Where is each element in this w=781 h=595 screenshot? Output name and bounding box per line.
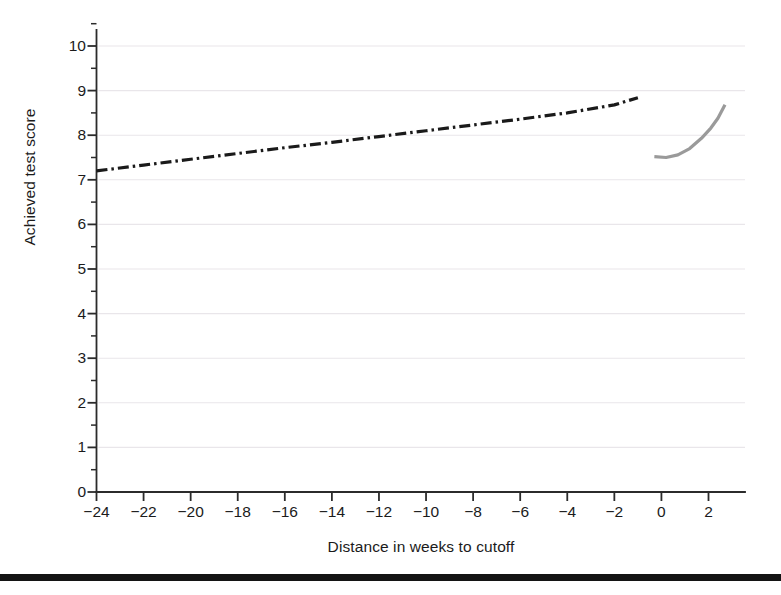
- y-tick-label: 10: [46, 37, 86, 55]
- y-tick-label: 7: [46, 171, 86, 189]
- data-line: [97, 98, 638, 171]
- footer-rule: [0, 574, 781, 581]
- y-tick-label: 9: [46, 82, 86, 100]
- y-tick-label: 5: [46, 260, 86, 278]
- axis-spine-group: [97, 30, 746, 492]
- y-tick-label: 4: [46, 305, 86, 323]
- y-axis-title: Achieved test score: [21, 67, 39, 287]
- x-tick-label-group: −24−22−20−18−16−14−12−10−8−6−4−202: [0, 503, 781, 531]
- tick-mark-group: [88, 24, 709, 501]
- y-tick-label: 2: [46, 394, 86, 412]
- x-tick-label: 2: [679, 503, 739, 521]
- x-axis-title: Distance in weeks to cutoff: [96, 538, 746, 556]
- chart-figure: Achieved test score Distance in weeks to…: [0, 0, 781, 595]
- y-tick-label: 0: [46, 483, 86, 501]
- y-tick-label: 1: [46, 438, 86, 456]
- y-tick-label: 8: [46, 126, 86, 144]
- data-series-group: [97, 98, 725, 171]
- y-tick-label: 3: [46, 349, 86, 367]
- data-line: [654, 105, 725, 158]
- y-tick-label: 6: [46, 215, 86, 233]
- gridline-group: [99, 46, 746, 447]
